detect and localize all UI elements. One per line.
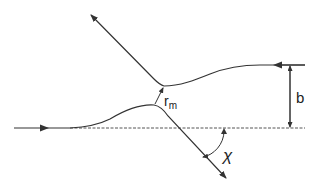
rm-label: rm <box>164 93 177 111</box>
b-label: b <box>296 89 304 106</box>
chi-label: χ <box>221 146 233 165</box>
lower-trajectory <box>70 105 226 178</box>
rm-arrow <box>155 88 163 104</box>
upper-trajectory <box>91 15 305 86</box>
chi-angle-arc <box>203 131 224 157</box>
scattering-diagram: rm b χ <box>0 0 318 189</box>
lower-incoming-arrow-icon <box>40 125 49 132</box>
chi-arc-top-arrow-icon <box>221 128 227 134</box>
